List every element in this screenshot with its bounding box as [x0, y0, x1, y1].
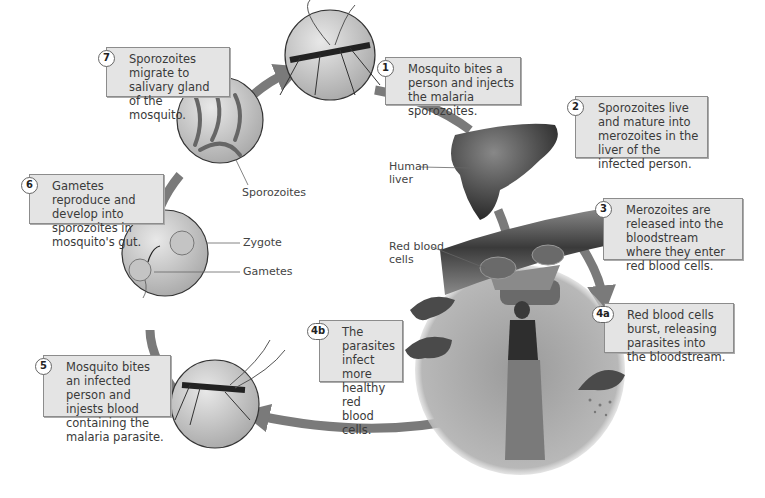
step-number-badge: 6 [21, 177, 38, 194]
step-4b-box: 4b The parasites infect more healthy red… [319, 320, 403, 382]
step-1-box: 1 Mosquito bites a person and injects th… [385, 57, 521, 105]
step-number-badge: 7 [98, 50, 115, 67]
arrow-7-to-1 [253, 72, 290, 95]
label-red-blood-cells: Red blood cells [389, 240, 444, 266]
step-number-badge: 5 [35, 358, 52, 375]
infected-person-photo [415, 265, 625, 475]
step-text: Mosquito bites an infected person and in… [66, 360, 164, 444]
step-5-box: 5 Mosquito bites an infected person and … [43, 355, 171, 417]
mosquito-feeding-image [171, 340, 285, 448]
step-text: Gametes reproduce and develop into sporo… [52, 179, 141, 249]
malaria-life-cycle-diagram: 1 Mosquito bites a person and injects th… [0, 0, 765, 498]
label-gametes: Gametes [243, 265, 293, 278]
step-number-badge: 4b [307, 323, 329, 340]
step-number-badge: 3 [595, 201, 612, 218]
step-text: Merozoites are released into the bloodst… [626, 203, 725, 273]
step-text: Sporozoites live and mature into merozoi… [598, 101, 698, 171]
label-zygote: Zygote [243, 236, 282, 249]
label-sporozoites: Sporozoites [242, 186, 306, 199]
step-number-badge: 4a [592, 306, 614, 323]
mosquito-bite-image [280, 0, 380, 100]
step-6-box: 6 Gametes reproduce and develop into spo… [29, 174, 164, 224]
step-4a-box: 4a Red blood cells burst, releasing para… [604, 303, 734, 353]
step-number-badge: 1 [377, 60, 394, 77]
label-human-liver: Human liver [389, 160, 429, 186]
step-2-box: 2 Sporozoites live and mature into meroz… [575, 96, 708, 158]
step-text: Red blood cells burst, releasing parasit… [627, 308, 725, 364]
step-number-badge: 2 [567, 99, 584, 116]
step-7-box: 7 Sporozoites migrate to salivary gland … [106, 47, 230, 97]
step-3-box: 3 Merozoites are released into the blood… [603, 198, 743, 260]
human-liver-image [420, 124, 558, 220]
